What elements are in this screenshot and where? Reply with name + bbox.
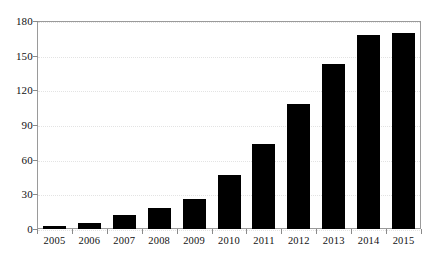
bar-2013[interactable] [322, 64, 345, 229]
x-tick-mark-2010 [212, 229, 213, 234]
x-tick-label-2012: 2012 [288, 236, 310, 247]
x-tick-label-2010: 2010 [218, 236, 240, 247]
x-tick-mark-2013 [316, 229, 317, 234]
gridline-y-0 [38, 230, 420, 231]
bar-2010[interactable] [218, 175, 241, 229]
x-tick-mark-2011 [246, 229, 247, 234]
bar-2008[interactable] [148, 208, 171, 229]
y-tick-mark-180 [33, 21, 38, 22]
y-tick-label-0: 0 [0, 224, 33, 235]
x-tick-label-2015: 2015 [393, 236, 415, 247]
x-tick-label-2006: 2006 [78, 236, 100, 247]
x-tick-mark-2007 [107, 229, 108, 234]
x-tick-label-2007: 2007 [113, 236, 135, 247]
y-tick-mark-120 [33, 90, 38, 91]
x-tick-label-2013: 2013 [323, 236, 345, 247]
y-tick-mark-90 [33, 125, 38, 126]
x-tick-mark-2006 [72, 229, 73, 234]
bar-2014[interactable] [357, 35, 380, 229]
bar-2009[interactable] [183, 199, 206, 229]
x-tick-label-2009: 2009 [183, 236, 205, 247]
bar-2006[interactable] [78, 223, 101, 229]
bar-chart: 0306090120150180 20052006200720082009201… [0, 0, 433, 266]
y-tick-label-120: 120 [0, 85, 33, 96]
y-tick-label-150: 150 [0, 50, 33, 61]
y-tick-label-30: 30 [0, 189, 33, 200]
x-tick-mark-2015 [386, 229, 387, 234]
x-tick-mark-2009 [177, 229, 178, 234]
x-tick-label-2005: 2005 [44, 236, 66, 247]
x-tick-label-2014: 2014 [358, 236, 380, 247]
y-tick-mark-150 [33, 56, 38, 57]
bar-2015[interactable] [392, 33, 415, 229]
y-tick-label-90: 90 [0, 120, 33, 131]
x-tick-label-2008: 2008 [148, 236, 170, 247]
y-tick-label-60: 60 [0, 154, 33, 165]
x-tick-mark-2014 [351, 229, 352, 234]
y-tick-label-180: 180 [0, 16, 33, 27]
x-tick-label-2011: 2011 [253, 236, 274, 247]
y-axis: 0306090120150180 [0, 0, 33, 266]
bar-2007[interactable] [113, 215, 136, 229]
bar-2012[interactable] [287, 104, 310, 229]
bar-2005[interactable] [43, 226, 66, 229]
y-tick-mark-30 [33, 194, 38, 195]
x-tick-mark-2008 [142, 229, 143, 234]
x-tick-mark-end [421, 229, 422, 234]
bar-2011[interactable] [252, 144, 275, 230]
y-tick-mark-60 [33, 160, 38, 161]
x-tick-mark-2005 [37, 229, 38, 234]
x-tick-mark-2012 [281, 229, 282, 234]
bars-layer [37, 21, 421, 229]
